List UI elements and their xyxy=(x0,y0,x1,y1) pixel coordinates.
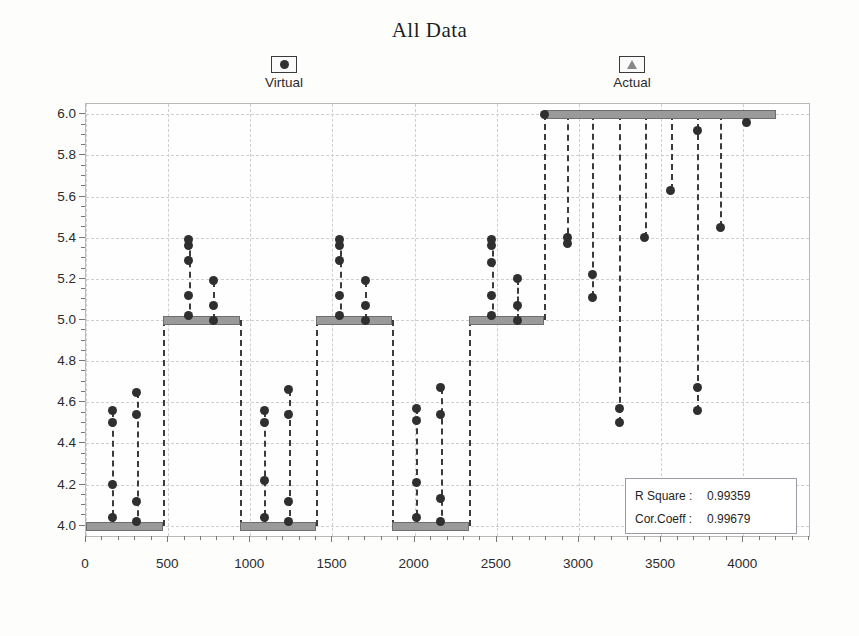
y-axis-minor-tick xyxy=(81,113,85,114)
data-point xyxy=(666,186,675,195)
step-bar xyxy=(392,522,468,531)
x-axis-minor-tick xyxy=(299,536,300,540)
data-point xyxy=(284,385,293,394)
legend-item-virtual[interactable]: Virtual xyxy=(224,56,344,90)
y-axis-tick-mark xyxy=(79,525,85,526)
stem-line xyxy=(240,320,242,526)
step-bar xyxy=(316,316,392,325)
data-point xyxy=(436,494,445,503)
x-axis-minor-tick xyxy=(266,536,267,540)
x-axis-tick-mark xyxy=(496,536,497,542)
data-point xyxy=(588,293,597,302)
y-axis-minor-tick xyxy=(81,473,85,474)
y-axis-minor-tick xyxy=(81,226,85,227)
stem-line xyxy=(544,114,546,320)
data-point xyxy=(693,406,702,415)
x-axis-minor-tick xyxy=(315,536,316,540)
x-axis-minor-tick xyxy=(562,536,563,540)
step-bar xyxy=(469,316,545,325)
step-bar xyxy=(544,110,776,119)
data-point xyxy=(513,274,522,283)
step-bar xyxy=(86,522,163,531)
x-axis-tick-label: 2500 xyxy=(481,556,511,571)
x-axis-minor-tick xyxy=(479,536,480,540)
stem-line xyxy=(316,320,318,526)
y-axis-minor-tick xyxy=(81,257,85,258)
stem-line xyxy=(697,114,699,410)
data-point xyxy=(693,383,702,392)
y-axis-tick-label: 4.2 xyxy=(32,476,76,491)
x-axis-minor-tick xyxy=(200,536,201,540)
data-point xyxy=(184,256,193,265)
y-axis-minor-tick xyxy=(81,185,85,186)
stem-line xyxy=(416,408,418,525)
y-axis-tick-label: 5.4 xyxy=(32,229,76,244)
step-bar xyxy=(240,522,316,531)
y-axis-minor-tick xyxy=(81,453,85,454)
x-axis-minor-tick xyxy=(118,536,119,540)
stem-line xyxy=(441,388,443,526)
x-axis-minor-tick xyxy=(611,536,612,540)
data-point xyxy=(640,233,649,242)
stem-line xyxy=(517,279,519,320)
x-axis-minor-tick xyxy=(381,536,382,540)
step-bar xyxy=(163,316,239,325)
x-axis-tick-mark xyxy=(249,536,250,542)
stem-line xyxy=(492,240,494,320)
x-axis-minor-tick xyxy=(397,536,398,540)
data-point xyxy=(615,418,624,427)
data-point xyxy=(412,404,421,413)
y-axis-tick-label: 5.2 xyxy=(32,270,76,285)
data-marks xyxy=(86,104,809,536)
data-point xyxy=(260,406,269,415)
data-point xyxy=(132,388,141,397)
y-axis-tick-label: 6.0 xyxy=(32,106,76,121)
legend-swatch-virtual xyxy=(271,56,297,73)
y-axis-minor-tick xyxy=(81,494,85,495)
legend-label-actual: Actual xyxy=(572,75,692,90)
x-axis-minor-tick xyxy=(644,536,645,540)
stem-line xyxy=(469,320,471,526)
x-axis-minor-tick xyxy=(759,536,760,540)
x-axis-minor-tick xyxy=(529,536,530,540)
y-axis-minor-tick xyxy=(81,247,85,248)
y-axis-minor-tick xyxy=(81,124,85,125)
data-point xyxy=(108,406,117,415)
x-axis-minor-tick xyxy=(512,536,513,540)
y-axis-tick-label: 4.6 xyxy=(32,394,76,409)
x-axis-minor-tick xyxy=(792,536,793,540)
data-point xyxy=(412,478,421,487)
y-axis-minor-tick xyxy=(81,340,85,341)
data-point xyxy=(742,118,751,127)
x-axis-minor-tick xyxy=(726,536,727,540)
y-axis-minor-tick xyxy=(81,196,85,197)
stem-line xyxy=(264,411,266,526)
data-point xyxy=(716,223,725,232)
stem-line xyxy=(112,411,114,526)
x-axis-tick-mark xyxy=(660,536,661,542)
y-axis-tick-label: 4.8 xyxy=(32,353,76,368)
y-axis-minor-tick xyxy=(81,350,85,351)
stem-line xyxy=(619,114,621,423)
stats-box: R Square : 0.99359 Cor.Coeff : 0.99679 xyxy=(625,478,797,534)
y-axis-minor-tick xyxy=(81,268,85,269)
stat-row-rsquare: R Square : 0.99359 xyxy=(626,484,796,507)
x-axis-minor-tick xyxy=(594,536,595,540)
y-axis-tick-label: 4.4 xyxy=(32,435,76,450)
data-point xyxy=(588,270,597,279)
stem-line xyxy=(671,114,673,190)
data-point xyxy=(108,418,117,427)
y-axis-minor-tick xyxy=(81,514,85,515)
legend-item-actual[interactable]: Actual xyxy=(572,56,692,90)
x-axis-tick-mark xyxy=(414,536,415,542)
data-point xyxy=(412,513,421,522)
stem-line xyxy=(720,114,722,227)
y-axis-minor-tick xyxy=(81,391,85,392)
x-axis-tick-label: 500 xyxy=(156,556,179,571)
data-point xyxy=(260,513,269,522)
data-point xyxy=(209,316,218,325)
x-axis-minor-tick xyxy=(463,536,464,540)
stem-line xyxy=(340,240,342,320)
y-axis-minor-tick xyxy=(81,360,85,361)
y-axis-minor-tick xyxy=(81,309,85,310)
